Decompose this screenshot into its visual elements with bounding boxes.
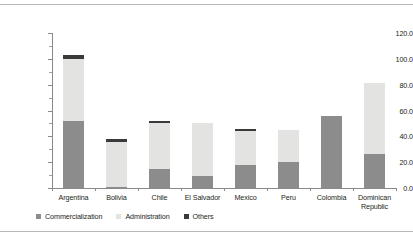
legend-item[interactable]: Commercialization [36, 212, 102, 221]
x-tick-label: Colombia [310, 193, 353, 202]
bar-segment[interactable] [364, 154, 385, 188]
bar-segment[interactable] [321, 116, 342, 188]
bar-stack[interactable] [192, 123, 213, 188]
bar-stack[interactable] [63, 55, 84, 188]
x-tick-label: Dominican Republic [353, 193, 396, 211]
bar-segment[interactable] [106, 187, 127, 188]
bar-segment[interactable] [278, 162, 299, 188]
chart-legend: CommercializationAdministrationOthers [36, 212, 214, 221]
x-tick-label: Peru [267, 193, 310, 202]
legend-item[interactable]: Administration [116, 212, 169, 221]
x-tick-label: Chile [138, 193, 181, 202]
bar-segment[interactable] [364, 83, 385, 154]
x-tick-mark [267, 188, 268, 191]
legend-label: Commercialization [45, 212, 102, 221]
x-tick-label: El Salvador [181, 193, 224, 202]
chart-container: 0.020.040.060.080.0100.0120.0 ArgentinaB… [0, 0, 413, 240]
bar-segment[interactable] [106, 142, 127, 187]
legend-label: Others [193, 212, 214, 221]
plot-area [52, 33, 396, 188]
bar-segment[interactable] [149, 169, 170, 188]
top-divider [0, 4, 413, 5]
x-tick-mark [138, 188, 139, 191]
legend-swatch [36, 214, 41, 219]
x-tick-label: Argentina [52, 193, 95, 202]
x-tick-mark [310, 188, 311, 191]
bar-segment[interactable] [278, 130, 299, 162]
x-tick-label: Mexico [224, 193, 267, 202]
bar-segment[interactable] [63, 59, 84, 121]
x-tick-mark [224, 188, 225, 191]
legend-swatch [116, 214, 121, 219]
x-tick-mark [396, 188, 397, 191]
bar-segment[interactable] [235, 131, 256, 165]
bar-segment[interactable] [235, 165, 256, 188]
x-tick-label: Bolivia [95, 193, 138, 202]
bar-stack[interactable] [321, 116, 342, 188]
bar-stack[interactable] [235, 129, 256, 188]
bar-stack[interactable] [149, 121, 170, 188]
legend-swatch [184, 214, 189, 219]
bar-segment[interactable] [192, 176, 213, 188]
bar-stack[interactable] [106, 139, 127, 188]
bar-segment[interactable] [149, 123, 170, 168]
bar-stack[interactable] [278, 130, 299, 188]
x-tick-mark [181, 188, 182, 191]
bottom-divider [0, 231, 413, 232]
legend-label: Administration [125, 212, 169, 221]
bar-stack[interactable] [364, 83, 385, 188]
bar-segment[interactable] [192, 123, 213, 176]
bar-segment[interactable] [63, 121, 84, 188]
legend-item[interactable]: Others [184, 212, 214, 221]
x-tick-mark [52, 188, 53, 191]
x-tick-mark [353, 188, 354, 191]
x-tick-mark [95, 188, 96, 191]
